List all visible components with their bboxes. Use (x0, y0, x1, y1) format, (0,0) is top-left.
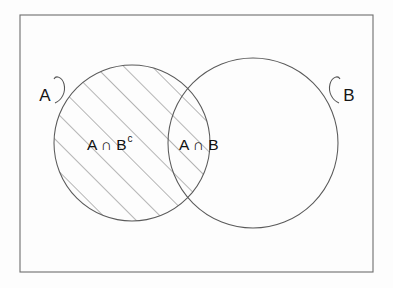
set-a-label: A (39, 86, 51, 105)
region-label-a-minus-b: A ∩ B c (87, 133, 133, 153)
region-label-a-minus-b-superscript: c (128, 133, 133, 144)
set-a-leader-line (54, 77, 65, 103)
set-b-label: B (343, 86, 354, 105)
venn-diagram-canvas: A B A ∩ B c A ∩ B (0, 0, 393, 288)
set-b-leader-line (329, 77, 340, 103)
region-label-a-and-b-text: A ∩ B (179, 136, 219, 153)
venn-diagram-figure: A B A ∩ B c A ∩ B (0, 0, 393, 288)
region-label-a-minus-b-text: A ∩ B (87, 136, 127, 153)
region-label-a-and-b: A ∩ B (179, 136, 219, 153)
